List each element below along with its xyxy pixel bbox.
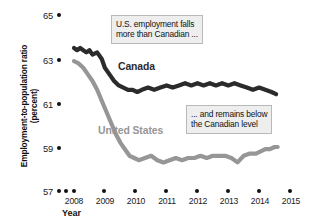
chart-container: Employment-to-population ratio (percent)… <box>0 0 310 222</box>
annotation-remains-below-line1: ... and remains below <box>191 109 267 119</box>
annotation-us-falls-line1: U.S. employment falls <box>116 19 198 29</box>
annotation-us-falls-line2: more than Canadian ... <box>116 29 198 39</box>
series-line-canada <box>74 48 276 94</box>
annotation-remains-below-line2: the Canadian level <box>191 119 267 129</box>
series-label-canada: Canada <box>118 61 155 72</box>
series-label-united-states: United States <box>98 125 163 136</box>
annotation-remains-below: ... and remains below the Canadian level <box>186 105 272 134</box>
annotation-us-falls: U.S. employment falls more than Canadian… <box>111 15 203 44</box>
